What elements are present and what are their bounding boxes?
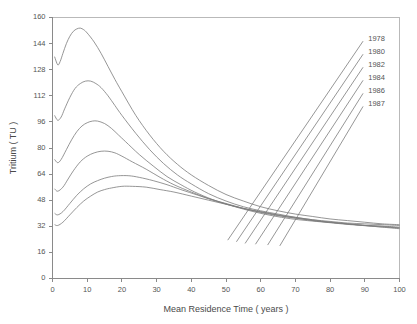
tritium-vs-residence-time-chart: 0163248648096112128144160 01020304050607… xyxy=(0,0,417,324)
y-tick-label: 64 xyxy=(37,169,45,178)
legend-label-1982: 1982 xyxy=(368,60,385,69)
curve-1982 xyxy=(55,121,400,227)
x-tick-label: 0 xyxy=(50,285,54,294)
legend-label-1978: 1978 xyxy=(368,34,385,43)
y-axis-ticks xyxy=(49,18,53,279)
legend-label-1987: 1987 xyxy=(368,99,385,108)
y-tick-label: 16 xyxy=(37,247,45,256)
legend-label-1984: 1984 xyxy=(368,73,385,82)
y-tick-label: 144 xyxy=(33,39,46,48)
legend-year-labels: 197819801982198419861987 xyxy=(368,34,385,108)
x-axis-ticks xyxy=(53,279,400,283)
y-tick-label: 128 xyxy=(33,65,46,74)
plot-frame xyxy=(53,18,400,279)
x-tick-label: 60 xyxy=(257,285,265,294)
x-tick-label: 50 xyxy=(222,285,230,294)
legend-label-1986: 1986 xyxy=(368,86,385,95)
y-axis-title: Tritium ( TU ) xyxy=(8,122,18,175)
y-tick-label: 0 xyxy=(41,273,45,282)
x-tick-label: 10 xyxy=(83,285,91,294)
data-curves xyxy=(55,28,400,229)
x-tick-label: 20 xyxy=(118,285,126,294)
leader-1980 xyxy=(236,54,363,242)
x-tick-label: 70 xyxy=(291,285,299,294)
x-tick-label: 100 xyxy=(393,285,406,294)
curve-1987 xyxy=(55,186,400,229)
leader-1982 xyxy=(245,67,363,243)
x-axis-title: Mean Residence Time ( years ) xyxy=(163,304,288,314)
y-tick-label: 32 xyxy=(37,221,45,230)
x-tick-label: 30 xyxy=(152,285,160,294)
chart-canvas: 0163248648096112128144160 01020304050607… xyxy=(0,0,417,324)
x-axis-tick-labels: 0102030405060708090100 xyxy=(50,285,405,294)
y-tick-label: 96 xyxy=(37,117,45,126)
x-tick-label: 40 xyxy=(187,285,195,294)
y-tick-label: 80 xyxy=(37,143,45,152)
y-tick-label: 160 xyxy=(33,12,46,21)
y-tick-label: 112 xyxy=(34,91,46,100)
axis-lines xyxy=(53,18,400,279)
x-tick-label: 80 xyxy=(326,285,334,294)
leader-1986 xyxy=(268,93,363,245)
curve-1978 xyxy=(55,28,400,225)
y-tick-label: 48 xyxy=(37,195,45,204)
legend-leader-lines xyxy=(228,41,363,246)
y-axis-tick-labels: 0163248648096112128144160 xyxy=(33,12,46,282)
x-tick-label: 90 xyxy=(361,285,369,294)
legend-label-1980: 1980 xyxy=(368,47,385,56)
